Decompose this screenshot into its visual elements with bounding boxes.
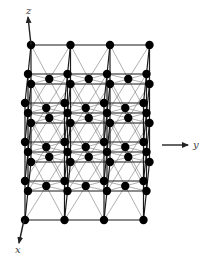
body-center-atom	[121, 143, 129, 151]
corner-atom	[100, 138, 108, 146]
corner-atom	[60, 177, 68, 185]
corner-atom	[27, 80, 35, 88]
corner-atom	[63, 70, 71, 78]
lattice-canvas: z y x	[0, 0, 206, 264]
corner-atom	[27, 119, 35, 127]
corner-atom	[66, 41, 74, 49]
body-center-atom	[85, 114, 93, 122]
corner-atom	[106, 80, 114, 88]
corner-atom	[106, 119, 114, 127]
corner-atom	[24, 148, 32, 156]
corner-atom	[142, 148, 150, 156]
body-center-atom	[82, 104, 90, 112]
body-center-atom	[42, 104, 50, 112]
corner-atom	[27, 158, 35, 166]
corner-atom	[139, 138, 147, 146]
corner-atom	[106, 158, 114, 166]
corner-atom	[21, 177, 29, 185]
body-center-atom	[42, 182, 50, 190]
corner-atom	[60, 99, 68, 107]
corner-atom	[139, 216, 147, 224]
corner-atom	[142, 109, 150, 117]
corner-atom	[103, 109, 111, 117]
corner-atom	[145, 41, 153, 49]
body-center-atom	[45, 75, 53, 83]
body-center-atom	[121, 182, 129, 190]
corner-atom	[145, 80, 153, 88]
corner-atom	[145, 119, 153, 127]
corner-atom	[63, 109, 71, 117]
body-center-atom	[45, 114, 53, 122]
corner-atom	[66, 119, 74, 127]
corner-atom	[63, 148, 71, 156]
body-center-atom	[85, 153, 93, 161]
corner-atom	[60, 216, 68, 224]
atoms	[21, 41, 154, 224]
y-axis-label: y	[192, 139, 199, 150]
corner-atom	[139, 99, 147, 107]
body-center-atom	[82, 143, 90, 151]
corner-atom	[24, 109, 32, 117]
x-axis-arrow	[19, 220, 24, 243]
corner-atom	[24, 187, 32, 195]
corner-atom	[103, 187, 111, 195]
body-center-atom	[45, 153, 53, 161]
body-center-atom	[85, 75, 93, 83]
corner-atom	[21, 99, 29, 107]
corner-atom	[100, 216, 108, 224]
corner-atom	[21, 138, 29, 146]
body-center-atom	[124, 153, 132, 161]
corner-atom	[24, 70, 32, 78]
body-center-atom	[42, 143, 50, 151]
corner-atom	[60, 138, 68, 146]
body-center-atom	[82, 182, 90, 190]
x-axis-label: x	[15, 244, 21, 255]
corner-atom	[103, 70, 111, 78]
corner-atom	[63, 187, 71, 195]
corner-atom	[145, 158, 153, 166]
bond-lines	[25, 45, 150, 220]
corner-atom	[66, 80, 74, 88]
corner-atom	[139, 177, 147, 185]
corner-atom	[66, 158, 74, 166]
corner-atom	[142, 187, 150, 195]
corner-atom	[106, 41, 114, 49]
body-center-atom	[121, 104, 129, 112]
corner-atom	[100, 177, 108, 185]
z-axis-arrow	[28, 17, 31, 45]
lattice-diagram: z y x	[0, 0, 206, 264]
corner-atom	[103, 148, 111, 156]
body-center-atom	[124, 114, 132, 122]
corner-atom	[142, 70, 150, 78]
corner-atom	[100, 99, 108, 107]
body-center-atom	[124, 75, 132, 83]
z-axis-label: z	[25, 5, 32, 16]
corner-atom	[21, 216, 29, 224]
